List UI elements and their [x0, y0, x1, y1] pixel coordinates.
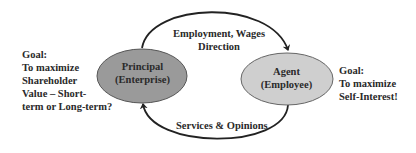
agent-goal: Goal: To maximize Self-Interest! [339, 64, 398, 103]
principal-title: Principal [100, 60, 185, 73]
principal-goal-line: Shareholder [22, 74, 112, 87]
agent-label: Agent (Employee) [244, 65, 329, 91]
agent-goal-line: Self-Interest! [339, 90, 398, 103]
principal-goal-line: To maximize [22, 61, 112, 74]
agent-title: Agent [244, 65, 329, 78]
edge-label-employment-line1: Employment, Wages [173, 27, 265, 40]
principal-goal: Goal: To maximize Shareholder Value – Sh… [22, 48, 112, 113]
principal-goal-line: Value – Short- [22, 87, 112, 100]
edge-label-services: Services & Opinions [176, 119, 268, 132]
agent-subtitle: (Employee) [244, 78, 329, 91]
principal-goal-line: term or Long-term? [22, 100, 112, 113]
principal-goal-heading: Goal: [22, 48, 112, 61]
principal-label: Principal (Enterprise) [100, 60, 185, 86]
agent-goal-heading: Goal: [339, 64, 398, 77]
agent-goal-line: To maximize [339, 77, 398, 90]
principal-subtitle: (Enterprise) [100, 73, 185, 86]
edge-label-employment-line2: Direction [173, 40, 265, 53]
edge-label-employment: Employment, Wages Direction [173, 27, 265, 53]
